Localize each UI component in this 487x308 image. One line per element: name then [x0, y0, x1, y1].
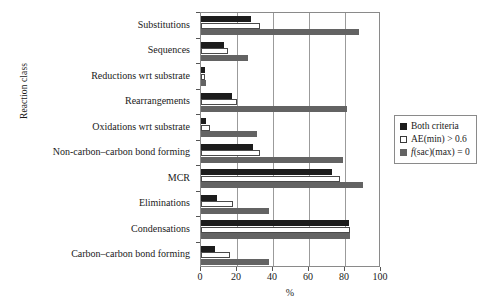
bar-fsac [201, 157, 343, 163]
bar-fsac [201, 106, 347, 112]
y-axis-tick-label: Substitutions [0, 19, 190, 30]
bar-ae [201, 150, 260, 156]
bar-ae [201, 227, 350, 233]
plot-area [200, 12, 380, 267]
legend-item-fsac-max: f(sac)(max) = 0 [400, 146, 470, 159]
x-axis-tick-label: 0 [180, 271, 220, 282]
bar-both [201, 118, 206, 124]
bar-fsac [201, 80, 206, 86]
legend-swatch-icon-ae [400, 136, 407, 143]
bar-ae [201, 176, 340, 182]
y-axis-tick [196, 165, 200, 166]
legend-swatch-icon-both [400, 123, 407, 130]
y-axis-tick-label: Condensations [0, 223, 190, 234]
bar-both [201, 67, 205, 73]
bar-both [201, 195, 217, 201]
x-axis-title: % [200, 287, 380, 298]
bar-ae [201, 201, 233, 207]
bar-both [201, 220, 349, 226]
bar-both [201, 169, 332, 175]
y-axis-tick-label: MCR [0, 172, 190, 183]
bar-group [201, 115, 379, 141]
y-axis-tick [196, 12, 200, 13]
bar-ae [201, 23, 260, 29]
bar-group [201, 39, 379, 65]
y-axis-tick-labels: SubstitutionsSequencesReductions wrt sub… [0, 12, 196, 267]
bar-group [201, 13, 379, 39]
x-axis-tick-label: 40 [252, 271, 292, 282]
legend-swatch-icon-fsac [400, 149, 407, 156]
y-axis-tick [196, 89, 200, 90]
x-axis-tick-label: 60 [288, 271, 328, 282]
bar-both [201, 144, 253, 150]
bar-fsac [201, 131, 257, 137]
bar-ae [201, 74, 205, 80]
y-axis-tick-label: Rearrangements [0, 95, 190, 106]
bar-both [201, 93, 232, 99]
y-axis-tick-label: Eliminations [0, 197, 190, 208]
x-axis-tick-label: 100 [360, 271, 400, 282]
chart-figure: Reaction class SubstitutionsSequencesRed… [0, 0, 487, 308]
bar-group [201, 90, 379, 116]
bar-fsac [201, 55, 248, 61]
legend-label-ae: AE(min) > 0.6 [411, 133, 467, 146]
y-axis-tick-label: Oxidations wrt substrate [0, 121, 190, 132]
y-axis-tick [196, 114, 200, 115]
y-axis-tick [196, 63, 200, 64]
x-axis-tick-label: 20 [216, 271, 256, 282]
y-axis-tick [196, 38, 200, 39]
y-axis-tick-label: Non-carbon–carbon bond forming [0, 146, 190, 157]
legend-item-both-criteria: Both criteria [400, 120, 470, 133]
y-axis-tick [196, 140, 200, 141]
y-axis-tick-label: Carbon–carbon bond forming [0, 248, 190, 259]
x-axis-tick-label: 80 [324, 271, 364, 282]
bar-both [201, 246, 215, 252]
bar-group [201, 217, 379, 243]
y-axis-tick [196, 191, 200, 192]
bar-fsac [201, 29, 359, 35]
bar-both [201, 42, 224, 48]
legend-item-ae-min: AE(min) > 0.6 [400, 133, 470, 146]
bar-ae [201, 125, 210, 131]
y-axis-tick [196, 242, 200, 243]
bar-group [201, 141, 379, 167]
bar-fsac [201, 233, 350, 239]
legend-label-both: Both criteria [411, 120, 459, 133]
bar-group [201, 192, 379, 218]
bar-both [201, 16, 251, 22]
bar-fsac [201, 208, 269, 214]
y-axis-tick-label: Reductions wrt substrate [0, 70, 190, 81]
bar-group [201, 243, 379, 269]
y-axis-tick-label: Sequences [0, 44, 190, 55]
bar-ae [201, 99, 237, 105]
y-axis-tick [196, 216, 200, 217]
bar-fsac [201, 259, 269, 265]
bar-group [201, 64, 379, 90]
legend: Both criteria AE(min) > 0.6 f(sac)(max) … [394, 115, 477, 164]
bar-ae [201, 252, 230, 258]
bar-fsac [201, 182, 363, 188]
legend-label-fsac-rest: (sac)(max) = 0 [414, 146, 470, 159]
bar-group [201, 166, 379, 192]
bar-ae [201, 48, 228, 54]
